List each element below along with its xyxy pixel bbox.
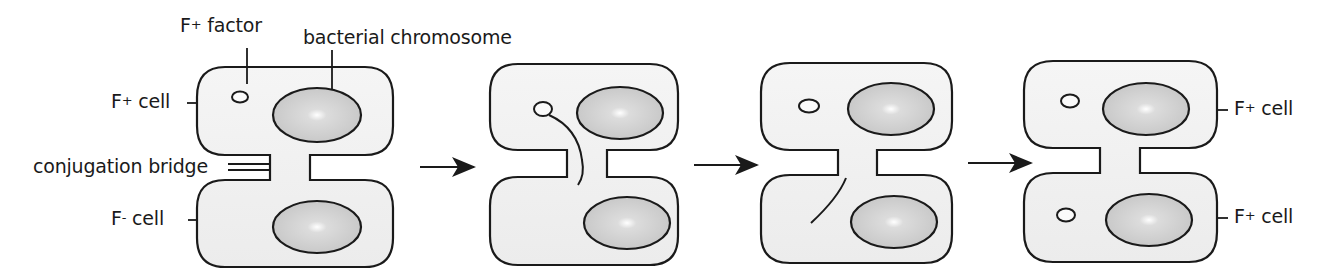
bacterial-chromosome-donor (273, 88, 361, 142)
f-factor-plasmid (799, 100, 819, 113)
label-f-plus-cell-left: F+ cell (111, 92, 170, 111)
bacterial-chromosome-donor (577, 87, 663, 139)
f-factor-plasmid-recipient (1057, 209, 1075, 222)
stage-1 (187, 48, 393, 267)
stage-4 (1024, 61, 1228, 262)
label-bacterial-chromosome: bacterial chromosome (303, 28, 512, 47)
f-factor-plasmid-donor (1061, 95, 1079, 108)
bacterial-chromosome-donor (848, 83, 934, 135)
bacterial-chromosome-recipient (273, 201, 361, 253)
label-f-factor: F+ factor (180, 16, 262, 35)
bacterial-chromosome-recipient (1106, 194, 1192, 246)
label-conjugation-bridge: conjugation bridge (33, 157, 208, 176)
diagram-canvas (0, 0, 1334, 277)
bacterial-chromosome-recipient (851, 196, 937, 248)
bacterial-chromosome-recipient (584, 197, 670, 249)
conjugation-diagram: F+ factor bacterial chromosome F+ cell c… (0, 0, 1334, 277)
bacterial-chromosome-donor (1103, 83, 1189, 135)
f-factor-plasmid (534, 102, 552, 116)
stage-3 (761, 63, 952, 263)
stage-2 (490, 64, 678, 265)
label-f-minus-cell-left: F- cell (111, 209, 164, 228)
f-factor-plasmid (232, 92, 248, 103)
label-f-plus-cell-right-top: F+ cell (1234, 99, 1293, 118)
label-f-plus-cell-right-bottom: F+ cell (1234, 207, 1293, 226)
